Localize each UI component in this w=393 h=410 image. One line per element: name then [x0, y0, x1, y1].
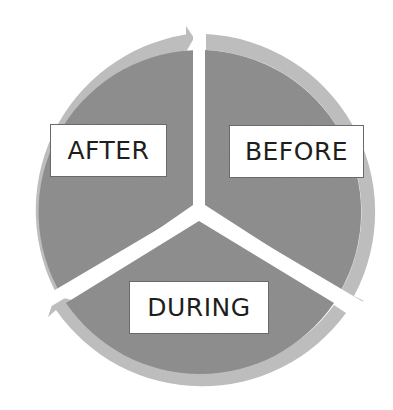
stage-label-after: AFTER — [50, 124, 167, 177]
stage-label-during: DURING — [129, 281, 269, 334]
stage-label-before: BEFORE — [229, 125, 364, 178]
stage-label-before-text: BEFORE — [245, 137, 348, 166]
stage-label-after-text: AFTER — [68, 136, 150, 165]
cycle-diagram — [0, 0, 393, 410]
stage-label-during-text: DURING — [147, 293, 250, 322]
